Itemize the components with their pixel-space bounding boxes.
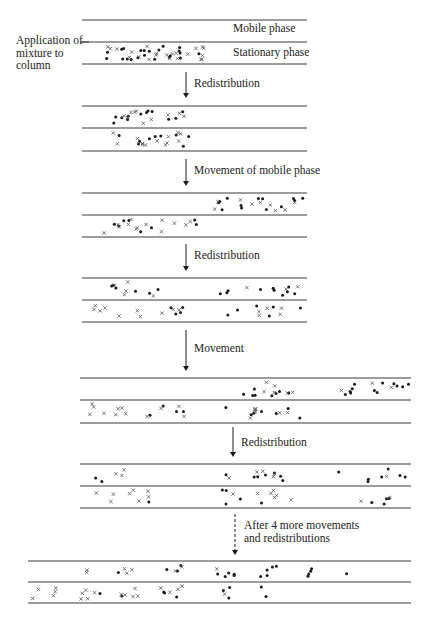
step-label-after-more: After 4 more movements and redistributio…	[244, 519, 359, 545]
solute-cross	[194, 47, 197, 50]
solute-cross	[124, 289, 127, 292]
solute-dot	[281, 479, 284, 482]
solute-dot	[94, 476, 97, 479]
chromatography-diagram	[0, 0, 433, 623]
application-line-3: column	[16, 59, 83, 72]
solute-cross	[93, 591, 96, 594]
solute-dot	[216, 573, 219, 576]
solute-cross	[86, 597, 89, 600]
solute-dot	[197, 52, 200, 55]
solute-dot	[310, 567, 313, 570]
solute-cross	[385, 475, 388, 478]
solute-dot	[143, 54, 146, 57]
solute-cross	[172, 308, 175, 311]
solute-cross	[177, 139, 180, 142]
solute-cross	[213, 207, 216, 210]
solute-cross	[139, 315, 142, 318]
step-label-redistribution-1: Redistribution	[194, 77, 260, 90]
solute-cross	[53, 590, 56, 593]
solute-dot	[309, 570, 312, 573]
solute-dot	[224, 575, 227, 578]
solute-dot	[299, 307, 302, 310]
solute-dot	[280, 205, 283, 208]
solute-cross	[137, 499, 140, 502]
solute-cross	[261, 470, 264, 473]
solute-cross	[102, 412, 105, 415]
solute-dot	[301, 197, 304, 200]
solute-cross	[286, 411, 289, 414]
solute-dot	[139, 230, 142, 233]
solute-cross	[54, 586, 57, 589]
solute-dot	[376, 391, 379, 394]
solute-dot	[139, 113, 142, 116]
solute-dot	[236, 309, 239, 312]
solute-cross	[249, 416, 252, 419]
solute-dot	[227, 571, 230, 574]
solute-dot	[195, 223, 198, 226]
solute-dot	[292, 197, 295, 200]
solute-cross	[128, 492, 131, 495]
solute-cross	[280, 306, 283, 309]
application-line-2: mixture to	[16, 47, 83, 60]
solute-dot	[396, 385, 399, 388]
solute-dot	[181, 110, 184, 113]
solute-dot	[162, 45, 165, 48]
solute-dot	[401, 385, 404, 388]
solute-dot	[266, 574, 269, 577]
solute-dot	[122, 219, 125, 222]
solute-dot	[261, 197, 264, 200]
solute-cross	[123, 293, 126, 296]
solute-cross	[201, 54, 204, 57]
solute-dot	[118, 134, 121, 137]
solute-cross	[266, 307, 269, 310]
mobile-phase-label: Mobile phase	[233, 22, 295, 35]
solute-dot	[138, 140, 141, 143]
solute-cross	[85, 571, 88, 574]
solute-dot	[260, 410, 263, 413]
solute-cross	[52, 594, 55, 597]
solute-cross	[155, 139, 158, 142]
solute-dot	[240, 204, 243, 207]
solute-cross	[258, 314, 261, 317]
solute-dot	[298, 417, 301, 420]
solute-dot	[167, 118, 170, 121]
solute-cross	[109, 500, 112, 503]
solute-cross	[273, 496, 276, 499]
solute-dot	[226, 197, 229, 200]
down-arrow-icon	[183, 181, 189, 186]
stationary-phase-label: Stationary phase	[233, 46, 309, 59]
solute-cross	[122, 114, 125, 117]
solute-cross	[390, 386, 393, 389]
solute-dot	[222, 589, 225, 592]
solute-cross	[128, 56, 131, 59]
application-label: Application of mixture to column	[16, 34, 83, 72]
solute-cross	[177, 405, 180, 408]
solute-dot	[148, 292, 151, 295]
solute-dot	[270, 394, 273, 397]
after-more-line-2: and redistributions	[244, 532, 359, 545]
solute-cross	[133, 587, 136, 590]
solute-dot	[272, 305, 275, 308]
solute-cross	[296, 285, 299, 288]
solute-dot	[159, 134, 162, 137]
solute-cross	[123, 593, 126, 596]
solute-cross	[168, 591, 171, 594]
step-label-movement-mobile-phase: Movement of mobile phase	[194, 164, 320, 177]
solute-dot	[256, 475, 259, 478]
solute-dot	[345, 572, 348, 575]
solute-dot	[278, 390, 281, 393]
solute-dot	[271, 565, 274, 568]
solute-cross	[164, 143, 167, 146]
solute-cross	[269, 203, 272, 206]
solute-cross	[120, 406, 123, 409]
solute-cross	[114, 472, 117, 475]
solute-cross	[130, 50, 133, 53]
solute-dot	[281, 294, 284, 297]
solute-cross	[112, 131, 115, 134]
solute-dot	[392, 382, 395, 385]
solute-cross	[371, 381, 374, 384]
solute-dot	[259, 575, 262, 578]
solute-cross	[120, 474, 123, 477]
solute-cross	[284, 287, 287, 290]
solute-dot	[337, 471, 340, 474]
